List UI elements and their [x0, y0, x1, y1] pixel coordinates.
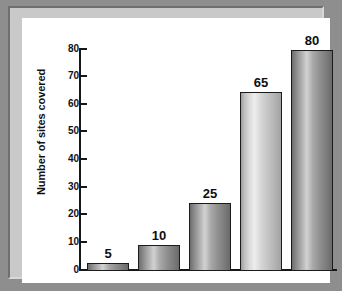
y-tick-label: 80 — [53, 44, 79, 54]
bar[interactable] — [87, 263, 129, 271]
bar-group-2004: 80 2004 — [291, 48, 333, 271]
bar-value-label: 10 — [138, 229, 180, 242]
y-tick-label: 50 — [53, 126, 79, 136]
y-tick-label: 70 — [53, 71, 79, 81]
y-tick-label: 10 — [53, 237, 79, 247]
figure-frame: Number of sites covered 80 70 60 50 40 3… — [8, 6, 324, 279]
bar-group-2000: 5 2000 — [87, 48, 129, 271]
figure: Number of sites covered 80 70 60 50 40 3… — [0, 0, 342, 291]
bar[interactable] — [291, 50, 333, 271]
bar-group-2002: 25 2002 — [189, 48, 231, 271]
y-axis-ticks: 80 70 60 50 40 30 20 10 0 — [40, 18, 79, 283]
bar-value-label: 65 — [240, 76, 282, 89]
y-tick-label: 60 — [53, 99, 79, 109]
bar[interactable] — [189, 203, 231, 271]
bar-series: 5 2000 10 2001 25 2002 65 2003 — [79, 48, 337, 271]
plot-area: Number of sites covered 80 70 60 50 40 3… — [22, 18, 330, 283]
bar-group-2001: 10 2001 — [138, 48, 180, 271]
y-tick-label: 30 — [53, 182, 79, 192]
y-tick-label: 40 — [53, 154, 79, 164]
bar[interactable] — [138, 245, 180, 271]
y-tick-label: 0 — [53, 265, 79, 275]
bar[interactable] — [240, 92, 282, 271]
y-tick-label: 20 — [53, 209, 79, 219]
bar-value-label: 80 — [291, 34, 333, 47]
bar-group-2003: 65 2003 — [240, 48, 282, 271]
bar-value-label: 25 — [189, 187, 231, 200]
bar-value-label: 5 — [87, 247, 129, 260]
